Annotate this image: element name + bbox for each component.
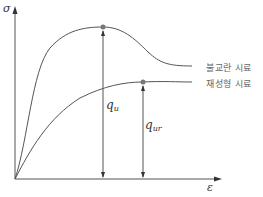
arrow-up-icon (101, 30, 105, 36)
stress-strain-diagram: σ ε qu qur 불교란 시료 재성형 시료 (0, 0, 263, 197)
qur-label: qur (145, 118, 162, 133)
y-axis-label: σ (3, 2, 11, 15)
arrow-down-icon (101, 172, 105, 178)
remolded-sample-label: 재성형 시료 (206, 77, 252, 90)
undisturbed-peak-point (101, 25, 106, 30)
qu-label: qu (106, 98, 119, 113)
x-axis (15, 177, 222, 182)
x-axis-label: ε (207, 181, 213, 194)
arrow-up-icon (141, 85, 145, 91)
x-axis-arrow-icon (214, 177, 222, 182)
y-axis (13, 6, 18, 179)
undisturbed-sample-label: 불교란 시료 (206, 61, 252, 74)
qu-dimension-arrow (101, 30, 105, 178)
diagram-canvas (0, 0, 263, 197)
y-axis-arrow-icon (13, 6, 18, 14)
remolded-peak-point (141, 80, 146, 85)
arrow-down-icon (141, 172, 145, 178)
